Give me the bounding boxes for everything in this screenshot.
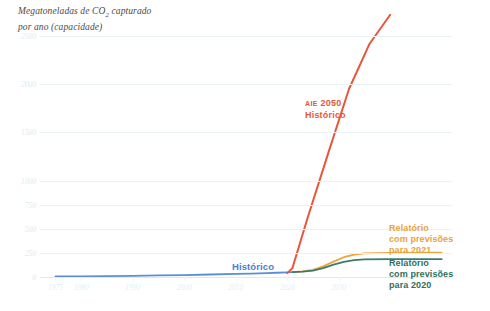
x-axis-tick-mark — [287, 277, 288, 281]
gridline — [40, 181, 452, 182]
chart-title-line1-post: capturado — [109, 6, 151, 16]
annotation-iea-year: 2050 — [321, 98, 342, 108]
y-axis-tick-label: 0 — [32, 273, 36, 282]
x-axis-tick-label: 2010 — [228, 283, 243, 292]
x-axis-tick-mark — [81, 277, 82, 281]
gridline — [40, 84, 452, 85]
x-axis-tick-mark — [55, 277, 56, 281]
y-axis-tick-label: 750 — [25, 200, 36, 209]
annotation-report-2021-line1: Relatório — [389, 223, 429, 233]
x-axis-tick-mark — [184, 277, 185, 281]
annotation-report-2021-line3: para 2021 — [389, 245, 431, 255]
annotation-iea-second-line: Histórico — [305, 110, 346, 120]
chart-title: Megatoneladas de CO2 capturado por ano (… — [18, 5, 238, 33]
annotation-report-2021: Relatório com previsões para 2021 — [389, 223, 453, 256]
annotation-report-2020: Relatório com previsões para 2020 — [389, 258, 453, 291]
x-axis-tick-mark — [339, 277, 340, 281]
chart-title-line2: por ano (capacidade) — [18, 22, 102, 32]
series-line — [55, 272, 292, 276]
x-axis-tick-label: 1980 — [74, 283, 89, 292]
y-axis-tick-label: 2000 — [21, 80, 36, 89]
y-axis-tick-label: 500 — [25, 224, 36, 233]
annotation-historical: Histórico — [232, 261, 274, 272]
x-axis-tick-label: 2000 — [177, 283, 192, 292]
x-axis-tick-label: 1975 — [48, 283, 63, 292]
annotation-report-2020-line1: Relatório — [389, 258, 429, 268]
chart-root: Megatoneladas de CO2 capturado por ano (… — [0, 0, 490, 311]
y-axis-tick-label: 2500 — [21, 32, 36, 41]
y-axis-tick-label: 1000 — [21, 176, 36, 185]
y-axis-tick-label: 1500 — [21, 128, 36, 137]
x-axis-tick-label: 2020 — [280, 283, 295, 292]
x-axis-tick-label: 2030 — [331, 283, 346, 292]
x-axis-tick-mark — [133, 277, 134, 281]
annotation-report-2020-line3: para 2020 — [389, 280, 431, 290]
annotation-iea-2050: AIE 2050 Histórico — [305, 98, 346, 121]
gridline — [40, 36, 452, 37]
x-axis-tick-mark — [236, 277, 237, 281]
y-axis-tick-label: 250 — [25, 248, 36, 257]
chart-title-line1-pre: Megatoneladas de CO — [18, 6, 105, 16]
annotation-iea-label: AIE — [305, 100, 318, 107]
gridline — [40, 132, 452, 133]
x-axis-tick-label: 1990 — [125, 283, 140, 292]
annotation-report-2020-line2: com previsões — [389, 269, 453, 279]
series-line — [287, 15, 390, 273]
annotation-report-2021-line2: com previsões — [389, 234, 453, 244]
gridline — [40, 205, 452, 206]
